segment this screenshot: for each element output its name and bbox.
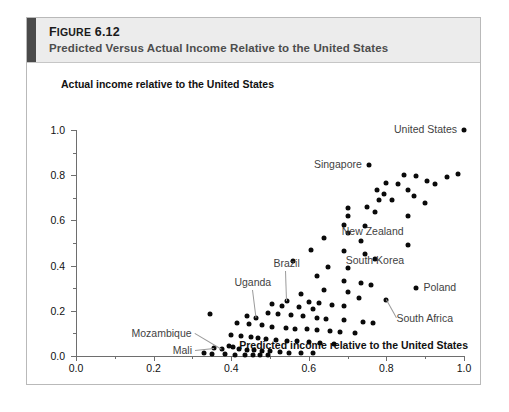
x-tick-label: 0.6 [301,362,316,374]
scatter-point [297,305,302,310]
y-tick-label: 0.4 [37,260,65,272]
scatter-point [314,328,319,333]
annotation-leader-line [386,299,397,317]
scatter-point [341,304,346,309]
scatter-point [411,193,416,198]
scatter-point [283,325,288,330]
scatter-point [322,236,327,241]
scatter-point [423,201,428,206]
y-tick-minor [73,333,76,334]
scatter-point [341,317,346,322]
x-tick [309,356,310,361]
scatter-point [264,337,269,342]
scatter-point [328,329,333,334]
x-tick-label: 0.8 [379,362,394,374]
scatter-point [236,347,241,352]
scatter-point [244,314,249,319]
scatter-point [269,324,274,329]
scatter-point [258,353,263,358]
annotation-label: Poland [424,281,457,293]
annotation-label: Uganda [234,276,271,288]
scatter-point [235,321,240,326]
scatter-point [405,213,410,218]
scatter-point [209,351,214,356]
scatter-point [405,243,410,248]
scatter-point [299,291,304,296]
y-tick-label: 1.0 [37,124,65,136]
scatter-point [326,264,331,269]
y-tick-label: 0.6 [37,214,65,226]
x-tick-label: 0.0 [69,362,84,374]
figure-title-band: FIGURE 6.12 Predicted Versus Actual Inco… [27,18,480,63]
scatter-point [314,315,319,320]
annotation-label: South Africa [396,312,453,324]
x-tick [76,356,77,361]
scatter-point [332,341,337,346]
scatter-point [299,350,304,355]
figure-frame: FIGURE 6.12 Predicted Versus Actual Inco… [26,17,481,385]
x-tick [154,356,155,361]
scatter-plot: Actual income relative to the United Sta… [27,63,482,385]
scatter-point [341,248,346,253]
x-tick [231,356,232,361]
x-tick-minor [348,356,349,359]
scatter-point [238,333,243,338]
scatter-point [250,353,255,358]
scatter-point [242,352,247,357]
scatter-point [300,314,305,319]
y-tick-minor [73,243,76,244]
scatter-point [256,335,261,340]
y-axis-label: Actual income relative to the United Sta… [61,78,274,90]
annotation-label: Mali [173,344,192,356]
scatter-point [462,128,467,133]
annotation-label: New Zealand [342,225,404,237]
figure-number-value: 6.12 [95,25,120,39]
scatter-point [405,187,410,192]
y-tick [71,311,76,312]
scatter-point [231,344,236,349]
scatter-point [304,327,309,332]
scatter-point [432,182,437,187]
scatter-point [275,312,280,317]
annotation-label: Brazil [273,257,299,269]
y-tick [71,130,76,131]
figure-number: FIGURE 6.12 [49,25,120,39]
scatter-point [223,352,228,357]
scatter-point [345,213,350,218]
scatter-point [266,353,271,358]
scatter-point [246,322,251,327]
scatter-point [353,331,358,336]
scatter-point [314,273,319,278]
scatter-point [277,349,282,354]
scatter-point [207,312,212,317]
scatter-point [370,321,375,326]
annotation-label: South Korea [346,254,404,266]
scatter-point [384,181,389,186]
scatter-point [372,210,377,215]
scatter-point [366,163,371,168]
figure-number-caps: IGURE [57,26,91,38]
y-tick-minor [73,153,76,154]
scatter-point [413,286,418,291]
scatter-point [273,337,278,342]
scatter-point [322,288,327,293]
y-tick-minor [73,288,76,289]
scatter-point [345,205,350,210]
annotation-leader-line [252,290,256,318]
annotation-label: Mozambique [132,327,192,339]
scatter-point [310,351,315,356]
scatter-point [229,332,234,337]
scatter-point [456,172,461,177]
scatter-point [330,303,335,308]
scatter-point [368,282,373,287]
scatter-point [202,351,207,356]
scatter-point [359,280,364,285]
scatter-point [444,175,449,180]
scatter-point [396,182,401,187]
scatter-point [269,302,274,307]
scatter-point [324,316,329,321]
y-tick-label: 0.0 [37,350,65,362]
scatter-point [306,340,311,345]
annotation-label: United States [394,123,457,135]
scatter-point [287,350,292,355]
